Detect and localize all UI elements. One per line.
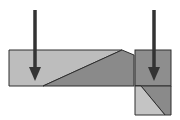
force-diagram: [0, 0, 180, 120]
down-arrow-icon: [148, 10, 160, 81]
down-arrow-icon: [29, 10, 41, 81]
